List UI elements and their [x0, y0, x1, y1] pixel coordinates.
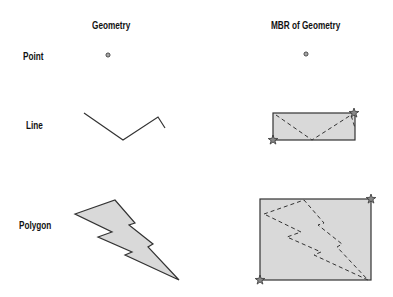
point-mbr — [304, 52, 308, 56]
line-geometry — [84, 113, 165, 140]
polygon-mbr — [255, 194, 376, 284]
polygon-geometry — [75, 200, 179, 280]
point-geometry — [106, 53, 110, 57]
line-mbr — [268, 108, 359, 144]
diagram-canvas — [0, 0, 393, 297]
